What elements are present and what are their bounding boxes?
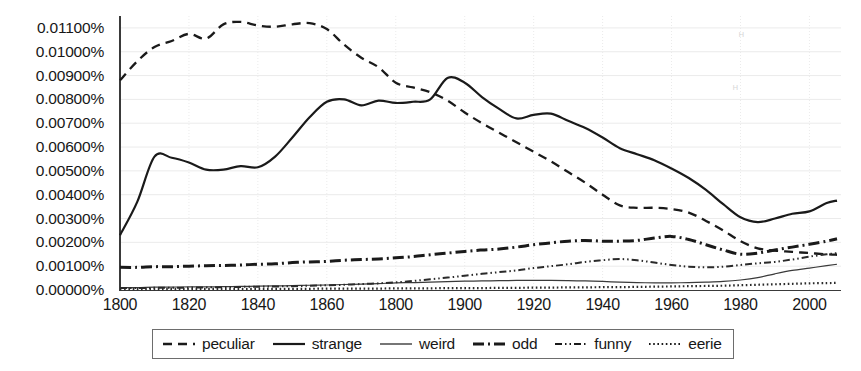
legend-line-sample-icon xyxy=(648,338,682,350)
y-axis-tick-label: 0.00600% xyxy=(36,139,104,155)
y-axis-tick-label: 0.00100% xyxy=(36,258,104,274)
x-axis-tick-label: 1920 xyxy=(516,297,550,313)
series-line-weird xyxy=(120,264,837,287)
y-axis-tick-label: 0.00700% xyxy=(36,115,104,131)
series-group xyxy=(120,22,837,289)
chart-legend: peculiarstrangeweirdoddfunnyeerie xyxy=(152,329,734,359)
chart-container: 0.01100%0.01000%0.00900%0.00800%0.00700%… xyxy=(0,0,861,371)
y-axis-tick-label: 0.00900% xyxy=(36,68,104,84)
x-axis-tick-label: 1800 xyxy=(379,297,413,313)
x-axis-tick-label: 1800 xyxy=(103,297,137,313)
plot-svg xyxy=(116,16,845,291)
x-axis-tick-labels: 1800182018401860180019001920194019601980… xyxy=(0,297,861,321)
legend-line-sample-icon xyxy=(162,338,196,350)
legend-item-funny[interactable]: funny xyxy=(554,330,648,358)
y-axis-tick-label: 0.00000% xyxy=(36,282,104,298)
x-axis-tick-label: 1840 xyxy=(241,297,275,313)
series-line-funny xyxy=(120,253,837,288)
series-line-eerie xyxy=(120,283,837,289)
scan-artifact: ᴴ xyxy=(739,30,744,42)
legend-item-peculiar[interactable]: peculiar xyxy=(162,330,272,358)
series-line-odd xyxy=(120,236,837,267)
legend-item-label: weird xyxy=(419,336,455,352)
y-axis-tick-label: 0.00400% xyxy=(36,187,104,203)
legend-item-label: peculiar xyxy=(202,336,255,352)
x-axis-tick-label: 1940 xyxy=(585,297,619,313)
x-axis-tick-label: 1860 xyxy=(310,297,344,313)
legend-line-sample-icon xyxy=(379,338,413,350)
y-axis-tick-label: 0.01000% xyxy=(36,44,104,60)
y-axis-tick-labels: 0.01100%0.01000%0.00900%0.00800%0.00700%… xyxy=(0,0,112,310)
legend-item-weird[interactable]: weird xyxy=(379,330,472,358)
x-axis-tick-label: 1960 xyxy=(654,297,688,313)
y-axis-tick-label: 0.00300% xyxy=(36,211,104,227)
x-axis-tick-label: 2000 xyxy=(792,297,826,313)
legend-line-sample-icon xyxy=(272,338,306,350)
x-axis-tick-label: 1980 xyxy=(723,297,757,313)
legend-item-label: funny xyxy=(594,336,631,352)
y-axis-tick-label: 0.00200% xyxy=(36,235,104,251)
legend-line-sample-icon xyxy=(472,338,506,350)
scan-artifact: ᴴ xyxy=(733,83,738,95)
x-axis-tick-label: 1820 xyxy=(172,297,206,313)
y-axis-tick-label: 0.00500% xyxy=(36,163,104,179)
legend-line-sample-icon xyxy=(554,338,588,350)
y-axis-tick-label: 0.01100% xyxy=(37,20,104,36)
legend-item-eerie[interactable]: eerie xyxy=(648,330,723,358)
y-axis-tick-label: 0.00800% xyxy=(36,92,104,108)
legend-item-strange[interactable]: strange xyxy=(272,330,379,358)
plot-area xyxy=(116,16,845,291)
legend-item-label: eerie xyxy=(688,336,721,352)
series-line-strange xyxy=(120,77,837,235)
legend-item-label: strange xyxy=(312,336,362,352)
legend-item-label: odd xyxy=(512,336,537,352)
legend-item-odd[interactable]: odd xyxy=(472,330,554,358)
x-axis-tick-label: 1900 xyxy=(448,297,482,313)
series-line-peculiar xyxy=(120,22,837,255)
